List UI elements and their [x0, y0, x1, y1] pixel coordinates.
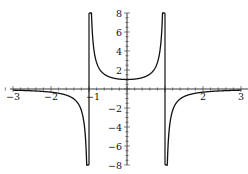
y-tick-label: 2: [116, 65, 122, 76]
y-tick-label: 8: [116, 8, 122, 19]
y-tick-label: −8: [108, 160, 122, 171]
y-tick-label: 4: [116, 46, 122, 57]
x-tick-label: −3: [6, 91, 20, 102]
y-tick-label: −2: [108, 103, 122, 114]
x-tick-label: 3: [238, 91, 244, 102]
function-plot: −3−2−123−8−6−4−22468: [0, 0, 248, 174]
y-tick-label: −6: [108, 141, 122, 152]
y-tick-label: −4: [108, 122, 122, 133]
x-tick-label: −1: [86, 91, 100, 102]
y-tick-label: 6: [116, 27, 122, 38]
